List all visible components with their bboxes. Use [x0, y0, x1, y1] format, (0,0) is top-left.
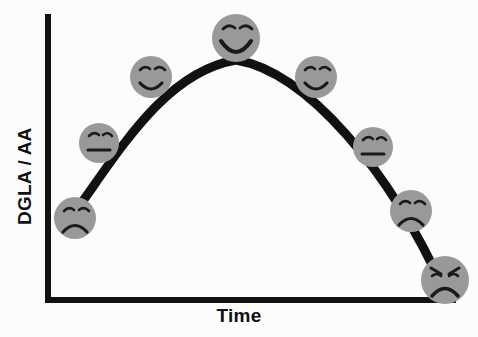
y-axis-label: DGLA / AA	[14, 25, 40, 225]
x-axis-label: Time	[0, 305, 478, 327]
marker-neutral-face-1	[79, 123, 119, 163]
marker-slight-smile-face-2	[130, 56, 172, 98]
marker-slight-smile-face-4	[295, 56, 337, 98]
chart-plot-area	[0, 0, 478, 337]
marker-angry-face-7	[421, 256, 469, 304]
marker-sad-face-6	[390, 190, 432, 232]
chart-figure: DGLA / AA Time	[0, 0, 478, 337]
marker-sad-face-0	[54, 197, 96, 239]
marker-big-smile-face-3	[212, 14, 260, 62]
trend-curve	[75, 60, 445, 292]
marker-neutral-face-5	[353, 127, 393, 167]
